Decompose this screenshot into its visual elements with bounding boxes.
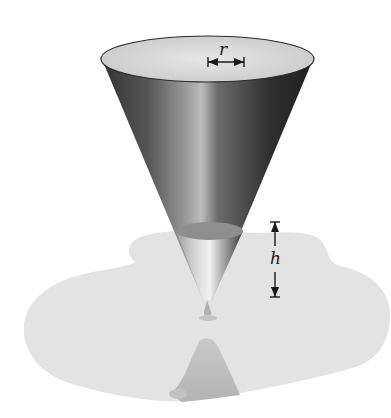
reflection-blob	[169, 389, 187, 399]
height-label: h	[270, 250, 281, 267]
water-surface	[176, 222, 243, 240]
splash	[199, 315, 217, 321]
cone-figure: r h	[0, 0, 391, 418]
radius-label: r	[219, 41, 227, 58]
